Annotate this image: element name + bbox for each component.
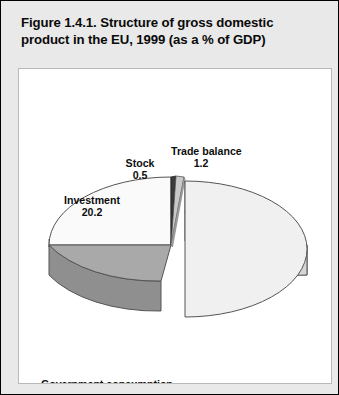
label-stock-name: Stock [126,157,155,169]
label-stock: Stock 0.5 [114,157,166,182]
label-stock-value: 0.5 [114,169,166,181]
figure-screenshot: Figure 1.4.1. Structure of gross domesti… [0,0,339,395]
label-investment-value: 20.2 [39,206,145,218]
label-government-name: Government consumption [41,378,173,384]
slice-household-consumption [185,181,307,317]
label-trade-balance-value: 1.2 [171,157,231,169]
pie-chart-plot-area: Stock 0.5 Trade balance 1.2 Investment 2… [18,68,332,384]
pie-chart-graphic [19,69,331,383]
label-trade-balance-name: Trade balance [171,145,242,157]
label-trade-balance: Trade balance 1.2 [171,145,231,170]
label-government-consumption: Government consumption 20.0 [41,378,171,384]
label-investment-name: Investment [64,194,120,206]
figure-title: Figure 1.4.1. Structure of gross domesti… [21,14,321,48]
label-investment: Investment 20.2 [39,194,145,219]
figure-frame: Figure 1.4.1. Structure of gross domesti… [6,5,333,390]
